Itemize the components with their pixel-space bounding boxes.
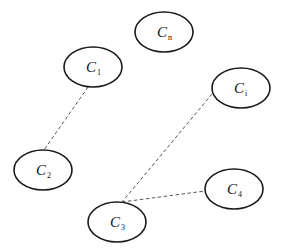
edge-ci-c3 <box>122 94 212 202</box>
cluster-graph: CnC1CiC2C4C3 <box>0 0 281 250</box>
diagram-canvas: CnC1CiC2C4C3 <box>0 0 281 250</box>
node-c3: C3 <box>88 202 146 242</box>
node-cn: Cn <box>135 12 193 52</box>
node-c1: C1 <box>64 47 122 87</box>
node-subscript: n <box>168 33 172 42</box>
node-c4: C4 <box>205 169 263 209</box>
edges-layer <box>44 87 212 202</box>
nodes-layer: CnC1CiC2C4C3 <box>14 12 270 242</box>
node-subscript: 2 <box>47 171 51 180</box>
node-ci: Ci <box>212 68 270 108</box>
node-subscript: 3 <box>121 223 125 232</box>
node-subscript: 1 <box>97 68 101 77</box>
edge-c1-c2 <box>44 87 88 150</box>
node-subscript: 4 <box>238 190 242 199</box>
node-c2: C2 <box>14 150 72 190</box>
edge-c3-c4 <box>122 191 205 202</box>
